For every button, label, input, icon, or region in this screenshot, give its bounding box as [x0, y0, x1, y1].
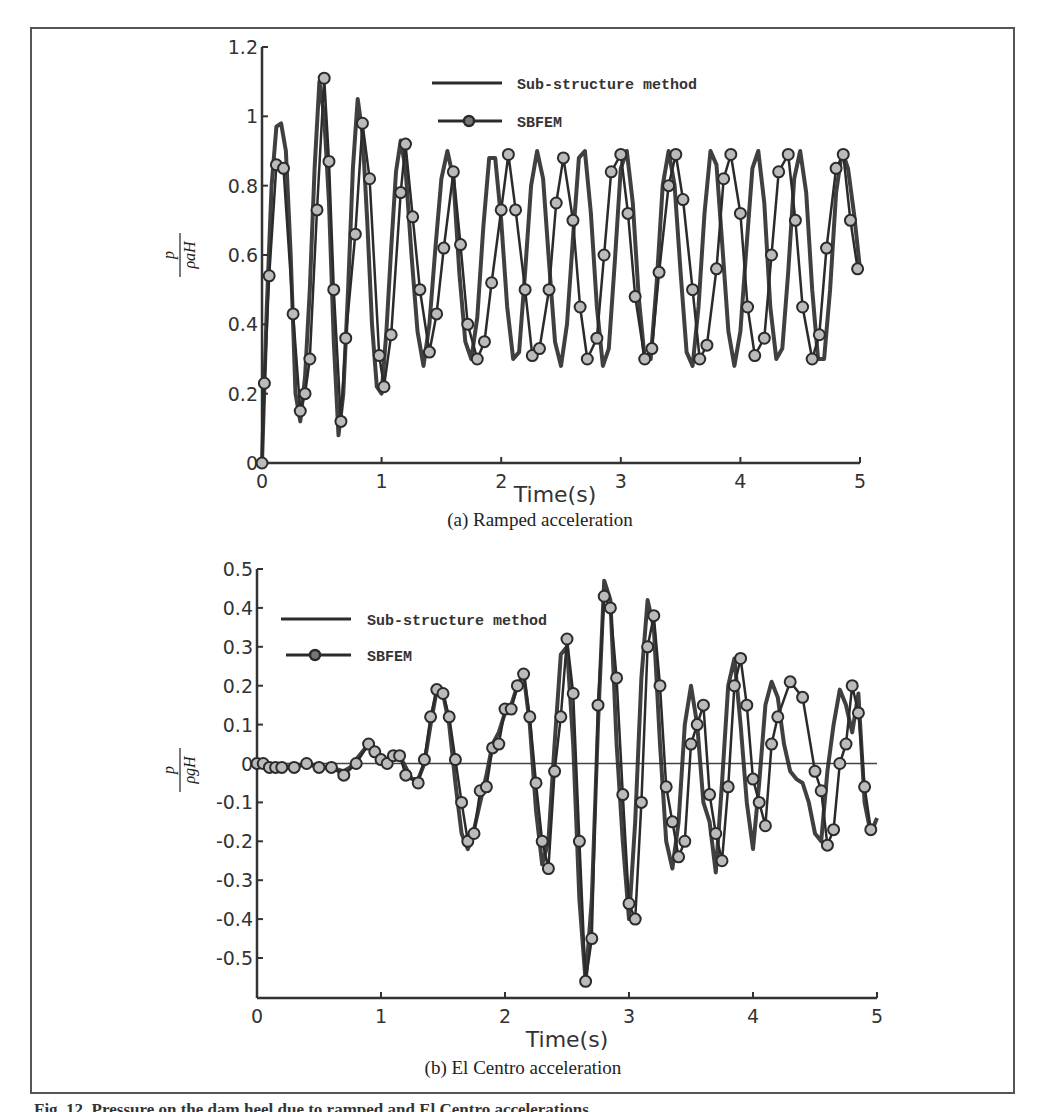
data-point-marker	[718, 173, 729, 184]
x-axis-title: Time(s)	[525, 1027, 608, 1052]
data-point-marker	[456, 797, 467, 808]
x-tick-label: 4	[747, 1005, 759, 1027]
data-point-marker	[524, 711, 535, 722]
data-point-marker	[340, 333, 351, 344]
data-point-marker	[567, 215, 578, 226]
data-point-marker	[852, 263, 863, 274]
data-point-marker	[259, 378, 270, 389]
data-point-marker	[543, 863, 554, 874]
data-point-marker	[754, 797, 765, 808]
data-point-marker	[822, 840, 833, 851]
figure-canvas: 00.20.40.60.811.2012345 Sub-structure me…	[0, 0, 1041, 1112]
x-tick-label: 5	[871, 1005, 883, 1027]
chart-el-centro-acceleration: -0.5-0.4-0.3-0.2-0.100.10.20.30.40.50123…	[160, 558, 883, 1079]
data-point-marker	[742, 302, 753, 313]
x-tick-label: 4	[734, 470, 746, 492]
x-tick-label: 2	[495, 470, 507, 492]
data-point-marker	[723, 781, 734, 792]
data-point-marker	[493, 739, 504, 750]
y-label-numerator: p	[160, 251, 178, 260]
data-point-marker	[759, 333, 770, 344]
data-point-marker	[438, 243, 449, 254]
data-point-marker	[378, 381, 389, 392]
x-tick-label: 5	[854, 470, 866, 492]
data-point-marker	[555, 711, 566, 722]
data-point-marker	[462, 319, 473, 330]
data-point-marker	[537, 836, 548, 847]
data-point-marker	[790, 215, 801, 226]
data-point-marker	[679, 836, 690, 847]
x-tick-label: 2	[499, 1005, 511, 1027]
y-tick-label: 0.8	[228, 175, 258, 197]
y-label-numerator: p	[160, 766, 178, 775]
data-point-marker	[414, 284, 425, 295]
data-point-marker	[419, 754, 430, 765]
y-tick-label: -0.5	[216, 947, 253, 969]
data-point-marker	[357, 118, 368, 129]
data-point-marker	[814, 329, 825, 340]
data-point-marker	[448, 166, 459, 177]
data-point-marker	[289, 762, 300, 773]
data-point-marker	[599, 250, 610, 261]
data-point-marker	[772, 711, 783, 722]
data-point-marker	[711, 263, 722, 274]
data-point-marker	[741, 700, 752, 711]
data-point-marker	[748, 774, 759, 785]
x-tick-label: 0	[256, 470, 268, 492]
data-point-marker	[479, 336, 490, 347]
y-label-denominator: ρaH	[181, 240, 199, 270]
data-point-marker	[663, 180, 674, 191]
y-tick-label: 0.5	[223, 558, 253, 580]
data-point-marker	[642, 641, 653, 652]
data-point-marker	[319, 73, 330, 84]
data-point-marker	[845, 215, 856, 226]
data-point-marker	[834, 758, 845, 769]
data-point-marker	[735, 208, 746, 219]
data-point-marker	[444, 711, 455, 722]
legend-label-sbfem: SBFEM	[367, 649, 412, 666]
data-point-marker	[518, 669, 529, 680]
data-point-marker	[865, 824, 876, 835]
data-point-marker	[773, 166, 784, 177]
series-group	[252, 581, 878, 987]
data-point-marker	[496, 204, 507, 215]
data-point-marker	[400, 770, 411, 781]
data-point-marker	[749, 350, 760, 361]
data-point-marker	[295, 406, 306, 417]
data-point-marker	[677, 194, 688, 205]
data-point-marker	[797, 302, 808, 313]
data-point-marker	[394, 750, 405, 761]
legend: Sub-structure method SBFEM	[281, 613, 547, 666]
data-point-marker	[661, 781, 672, 792]
data-point-marker	[694, 354, 705, 365]
data-point-marker	[288, 308, 299, 319]
data-point-marker	[469, 828, 480, 839]
data-point-marker	[351, 758, 362, 769]
x-tick-label: 1	[375, 1005, 387, 1027]
y-tick-label: 0.4	[228, 313, 258, 335]
data-point-marker	[735, 653, 746, 664]
legend-marker-circle-icon	[464, 116, 474, 126]
data-point-marker	[701, 340, 712, 351]
subcaption-a: (a) Ramped acceleration	[447, 509, 633, 531]
x-tick-label: 3	[623, 1005, 635, 1027]
x-tick-label: 3	[615, 470, 627, 492]
data-point-marker	[531, 777, 542, 788]
data-point-marker	[300, 388, 311, 399]
data-point-marker	[400, 139, 411, 150]
y-tick-label: 1.2	[228, 36, 258, 58]
data-point-marker	[729, 680, 740, 691]
data-point-marker	[599, 591, 610, 602]
series-group	[257, 73, 864, 469]
axes: -0.5-0.4-0.3-0.2-0.100.10.20.30.40.50123…	[216, 558, 883, 1027]
x-tick-label: 1	[376, 470, 388, 492]
data-point-marker	[673, 851, 684, 862]
data-point-marker	[326, 762, 337, 773]
data-point-marker	[481, 781, 492, 792]
data-point-marker	[472, 354, 483, 365]
data-point-marker	[853, 707, 864, 718]
data-point-marker	[328, 284, 339, 295]
data-point-marker	[503, 149, 514, 160]
data-point-marker	[575, 302, 586, 313]
data-point-marker	[580, 976, 591, 987]
